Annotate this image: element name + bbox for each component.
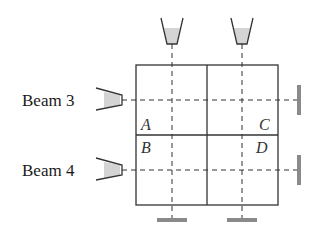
beam-3-label: Beam 3: [22, 91, 74, 110]
emitter-beam-1-icon: [161, 18, 183, 44]
emitter-beam-3-icon: [96, 88, 122, 110]
detector-beam-4-icon: [297, 155, 301, 185]
cell-d-label: D: [255, 139, 268, 156]
cell-b-label: B: [141, 139, 151, 156]
detector-beam-3-icon: [297, 85, 301, 115]
emitter-beam-4-icon: [96, 158, 122, 180]
detector-beam-2-icon: [227, 218, 257, 222]
emitter-beam-2-icon: [231, 18, 253, 44]
beam-grid-diagram: Beam 3 Beam 4 A B C D: [0, 0, 321, 238]
beam-4-label: Beam 4: [22, 161, 75, 180]
cell-c-label: C: [259, 116, 270, 133]
cell-a-label: A: [140, 116, 151, 133]
detector-beam-1-icon: [157, 218, 187, 222]
